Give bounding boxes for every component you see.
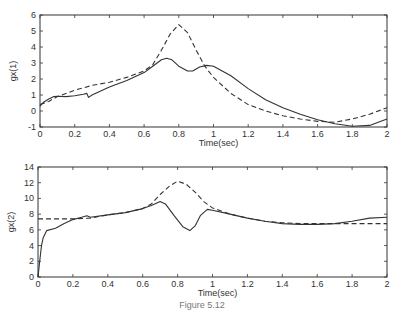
x-tick-label: 0.4 xyxy=(103,129,116,139)
x-tick-label: 1.6 xyxy=(311,129,324,139)
subplot-gx2: 00.20.40.60.811.21.41.61.8202468101214Ti… xyxy=(6,162,390,298)
x-tick-label: 0.2 xyxy=(68,129,81,139)
x-tick-label: 0.4 xyxy=(102,279,115,289)
y-tick-label: 4 xyxy=(31,42,36,52)
y-tick-label: 12 xyxy=(24,178,34,188)
x-tick-label: 2 xyxy=(384,279,389,289)
y-tick-label: 2 xyxy=(31,74,36,84)
x-tick-label: 1.4 xyxy=(276,279,289,289)
y-tick-label: 4 xyxy=(29,241,34,251)
x-tick-label: 0.8 xyxy=(171,279,184,289)
x-axis-label: Time(sec) xyxy=(199,138,239,148)
y-tick-label: 3 xyxy=(31,58,36,68)
x-tick-label: 1.4 xyxy=(277,129,290,139)
x-tick-label: 1.2 xyxy=(241,279,254,289)
y-axis-label: gx(1) xyxy=(8,61,18,82)
y-tick-label: 6 xyxy=(29,225,34,235)
subplot-gx1: 00.20.40.60.811.21.41.61.82-10123456Time… xyxy=(8,10,390,148)
series-desired xyxy=(40,25,387,123)
chart-canvas: 00.20.40.60.811.21.41.61.82-10123456Time… xyxy=(0,0,404,314)
y-tick-label: -1 xyxy=(28,122,36,132)
plot-frame xyxy=(40,15,387,127)
x-axis-label: Time(sec) xyxy=(198,288,238,298)
x-tick-label: 1.8 xyxy=(346,279,359,289)
x-tick-label: 1.2 xyxy=(242,129,255,139)
y-tick-label: 1 xyxy=(31,90,36,100)
y-tick-label: 6 xyxy=(31,10,36,20)
series-actual xyxy=(38,202,387,277)
y-tick-label: 2 xyxy=(29,256,34,266)
x-tick-label: 1.6 xyxy=(311,279,324,289)
y-tick-label: 14 xyxy=(24,162,34,172)
figure-caption: Figure 5.12 xyxy=(0,300,404,310)
y-tick-label: 0 xyxy=(29,272,34,282)
series-actual xyxy=(40,58,387,126)
x-tick-label: 0.8 xyxy=(173,129,186,139)
x-tick-label: 0 xyxy=(35,279,40,289)
y-tick-label: 8 xyxy=(29,209,34,219)
x-tick-label: 2 xyxy=(384,129,389,139)
x-tick-label: 0.6 xyxy=(138,129,151,139)
y-tick-label: 5 xyxy=(31,26,36,36)
figure: 00.20.40.60.811.21.41.61.82-10123456Time… xyxy=(0,0,404,314)
x-tick-label: 0.2 xyxy=(67,279,80,289)
x-tick-label: 0.6 xyxy=(136,279,149,289)
x-tick-label: 0 xyxy=(37,129,42,139)
y-tick-label: 10 xyxy=(24,193,34,203)
y-tick-label: 0 xyxy=(31,106,36,116)
y-axis-label: gx(2) xyxy=(6,212,16,233)
plot-frame xyxy=(38,167,387,277)
x-tick-label: 1.8 xyxy=(346,129,359,139)
